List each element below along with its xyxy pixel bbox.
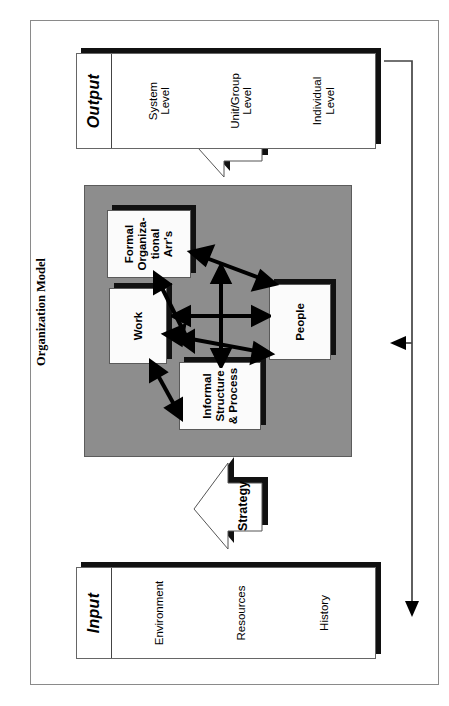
- strategy-arrow-label: Strategy: [236, 463, 250, 549]
- input-item-environment: Environment: [152, 580, 165, 645]
- strategy-arrow: Strategy: [192, 463, 264, 549]
- output-panel: Output System Level Unit/Group Level Ind…: [76, 53, 376, 149]
- input-heading: Input: [77, 568, 112, 658]
- input-item-history: History: [317, 595, 330, 631]
- diagonal-arrows: [85, 184, 353, 456]
- organization-model-diagram: Input Environment Resources History Stra…: [40, 33, 430, 673]
- page-frame: Input Environment Resources History Stra…: [30, 20, 439, 685]
- output-item-individual-level: Individual Level: [311, 76, 336, 125]
- output-item-system-level: System Level: [146, 81, 171, 119]
- input-item-resources: Resources: [235, 585, 248, 640]
- input-panel: Input Environment Resources History: [76, 567, 376, 659]
- output-item-unit-group-level: Unit/Group Level: [228, 73, 253, 129]
- diagram-canvas-rotated: Input Environment Resources History Stra…: [40, 33, 430, 673]
- output-heading: Output: [77, 54, 112, 148]
- strategy-arrow-face: [192, 463, 264, 549]
- transformation-process-panel: Formal Organiza- tional Arr's Informal S…: [84, 185, 352, 457]
- page-title: Organization Model: [32, 232, 50, 392]
